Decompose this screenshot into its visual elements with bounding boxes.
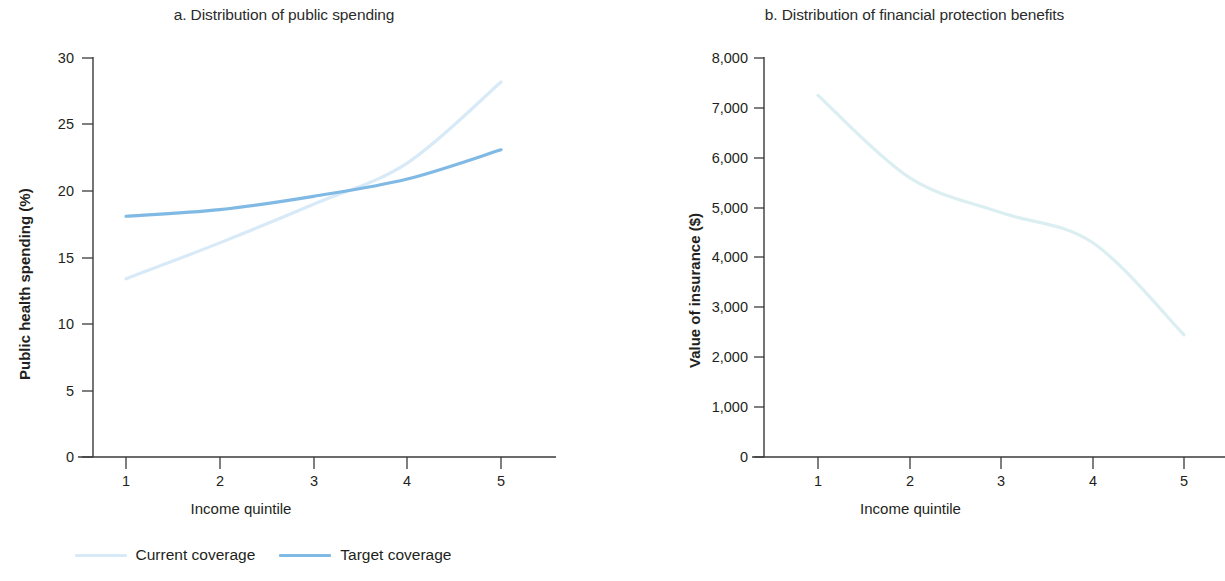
chart-panel-a: a. Distribution of public spending — [0, 0, 612, 530]
panel-b-y-tick-5000: 5,000 — [670, 200, 748, 216]
panel-b-x-ticks — [818, 457, 1184, 469]
legend-label-current-coverage: Current coverage — [136, 546, 256, 564]
panel-b-y-axis-title: Value of insurance ($) — [686, 213, 703, 368]
panel-a-x-ticks — [126, 457, 501, 469]
panel-b-x-tick-4: 4 — [1073, 473, 1113, 489]
panel-b-line-insurance-value — [818, 95, 1184, 334]
panel-a-y-tick-30: 30 — [22, 50, 74, 66]
panel-a-x-tick-1: 1 — [106, 473, 146, 489]
panel-b-y-tick-6000: 6,000 — [670, 150, 748, 166]
panel-b-y-tick-2000: 2,000 — [670, 349, 748, 365]
panel-b-x-axis-title: Income quintile — [604, 500, 1217, 517]
panel-a-y-tick-5: 5 — [22, 383, 74, 399]
legend-swatch-target-coverage-icon — [279, 554, 331, 557]
panel-a-plot-area — [0, 0, 612, 530]
panel-a-x-tick-5: 5 — [481, 473, 521, 489]
panel-a-y-tick-0: 0 — [22, 449, 74, 465]
panel-b-y-ticks — [754, 58, 764, 457]
panel-b-y-tick-7000: 7,000 — [670, 100, 748, 116]
panel-b-x-tick-2: 2 — [890, 473, 930, 489]
panel-a-x-axis-title: Income quintile — [0, 500, 547, 517]
panel-a-line-current-coverage — [126, 82, 501, 279]
panel-a-x-tick-3: 3 — [294, 473, 334, 489]
legend-item-target-coverage[interactable]: Target coverage — [279, 546, 451, 564]
panel-a-x-tick-2: 2 — [200, 473, 240, 489]
panel-b-y-tick-8000: 8,000 — [670, 50, 748, 66]
panel-a-line-target-coverage — [126, 150, 501, 217]
panel-b-x-tick-1: 1 — [798, 473, 838, 489]
legend-item-current-coverage[interactable]: Current coverage — [75, 546, 256, 564]
panel-b-y-tick-3000: 3,000 — [670, 299, 748, 315]
panel-b-y-tick-0: 0 — [670, 449, 748, 465]
panel-b-y-tick-4000: 4,000 — [670, 249, 748, 265]
panel-a-y-tick-25: 25 — [22, 116, 74, 132]
chart-legend: Current coverage Target coverage — [0, 546, 569, 564]
legend-swatch-current-coverage-icon — [75, 554, 127, 557]
panel-b-x-tick-3: 3 — [981, 473, 1021, 489]
panel-b-y-tick-1000: 1,000 — [670, 399, 748, 415]
panel-b-x-tick-5: 5 — [1164, 473, 1204, 489]
panel-a-x-tick-4: 4 — [387, 473, 427, 489]
legend-label-target-coverage: Target coverage — [340, 546, 451, 564]
chart-panel-b: b. Distribution of financial protection … — [612, 0, 1225, 530]
panel-a-y-axis-title: Public health spending (%) — [16, 188, 33, 380]
figure-two-panel-chart: a. Distribution of public spending — [0, 0, 1225, 581]
panel-a-y-ticks — [82, 58, 93, 457]
